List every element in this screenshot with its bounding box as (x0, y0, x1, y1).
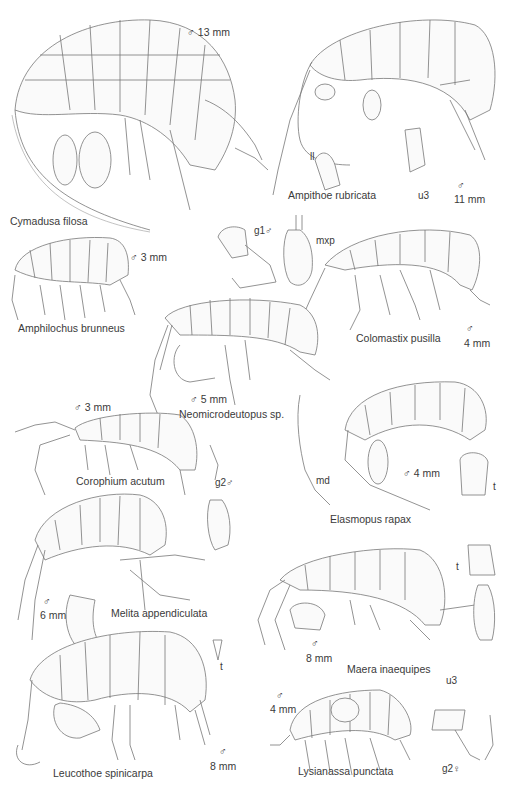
specimen-name-melita-appendiculata: Melita appendiculata (111, 608, 207, 619)
specimen-sex-melita: ♂ (43, 596, 51, 607)
specimen-sex-maera: ♂ (311, 638, 319, 649)
leucothoe-drawing (17, 631, 222, 764)
specimen-name-neomicrodeutopus: Neomicrodeutopus sp. (179, 409, 284, 420)
specimen-size-ampithoe: 11 mm (454, 194, 485, 205)
detail-label-u3-maera: u3 (446, 676, 457, 686)
detail-label-g1: g1♂ (254, 226, 273, 236)
elasmopus-drawing (298, 382, 488, 510)
line-art-drawings (0, 0, 511, 788)
detail-label-g2-lysianassa: g2♀ (442, 764, 461, 774)
specimen-size-maera: 8 mm (306, 653, 332, 664)
specimen-sex-lysianassa: ♂ (276, 690, 284, 701)
specimen-sex-ampithoe: ♂ (457, 180, 465, 191)
specimen-size-amphilochus: ♂ 3 mm (130, 252, 167, 263)
specimen-name-cymadusa-filosa: Cymadusa filosa (10, 216, 88, 227)
maera-drawing (258, 545, 495, 650)
specimen-sex-leucothoe: ♂ (219, 746, 227, 757)
specimen-name-leucothoe-spinicarpa: Leucothoe spinicarpa (53, 768, 153, 779)
specimen-name-maera-inaequipes: Maera inaequipes (347, 664, 430, 675)
specimen-sex-colomastix: ♂ (466, 323, 474, 334)
detail-label-ll: ll (310, 152, 314, 162)
specimen-size-neomicrodeutopus: ♂ 5 mm (190, 394, 227, 405)
cymadusa-drawing (12, 20, 268, 232)
detail-label-g2-corophium: g2♂ (215, 478, 234, 488)
specimen-size-leucothoe: 8 mm (210, 761, 236, 772)
specimen-size-lysianassa: 4 mm (270, 704, 296, 715)
detail-label-mxp: mxp (316, 236, 335, 246)
specimen-size-cymadusa: ♂ 13 mm (187, 27, 230, 38)
specimen-name-lysianassa-punctata: Lysianassa punctata (298, 766, 393, 777)
detail-label-t-leucothoe: t (220, 662, 223, 672)
specimen-name-corophium-acutum: Corophium acutum (76, 476, 165, 487)
detail-label-u3-ampithoe: u3 (418, 191, 429, 201)
amphilochus-drawing (12, 237, 135, 320)
ampithoe-drawing (273, 20, 495, 195)
specimen-size-corophium: ♂ 3 mm (74, 402, 111, 413)
specimen-size-elasmopus: ♂ 4 mm (403, 468, 440, 479)
illustration-plate: Cymadusa filosa ♂ 13 mm Ampithoe rubrica… (0, 0, 511, 788)
detail-label-t-maera: t (456, 562, 459, 572)
specimen-size-melita: 6 mm (40, 610, 66, 621)
melita-drawing (18, 494, 230, 655)
specimen-name-ampithoe-rubricata: Ampithoe rubricata (288, 190, 376, 201)
specimen-name-elasmopus-rapax: Elasmopus rapax (330, 514, 411, 525)
specimen-name-amphilochus-brunneus: Amphilochus brunneus (18, 323, 125, 334)
detail-label-t-elasmopus: t (493, 482, 496, 492)
detail-label-md: md (316, 476, 330, 486)
neomicrodeutopus-drawing (150, 298, 330, 420)
specimen-name-colomastix-pusilla: Colomastix pusilla (356, 333, 441, 344)
specimen-size-colomastix: 4 mm (464, 338, 490, 349)
